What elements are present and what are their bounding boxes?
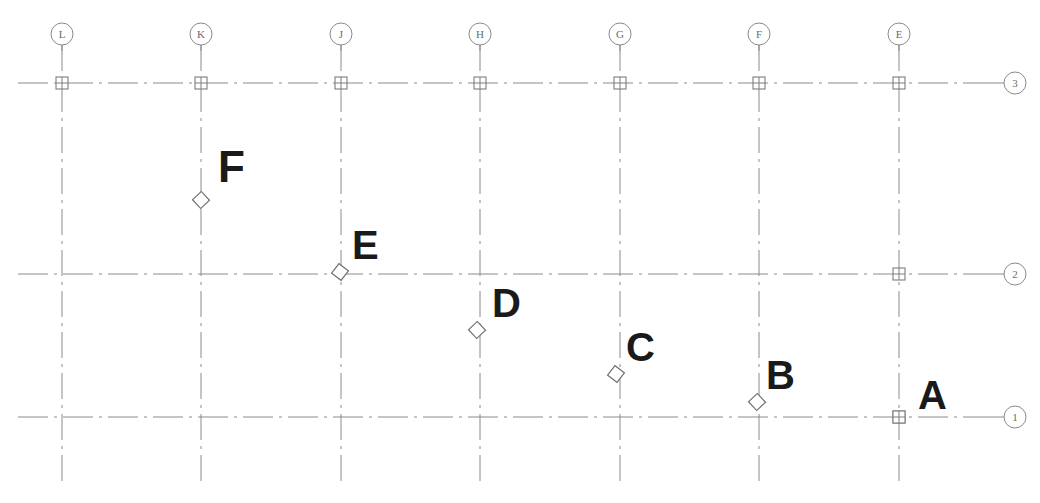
point-label-F: F: [218, 145, 245, 189]
column-grid-bubble-label: F: [756, 28, 762, 40]
column-grid-bubble-E[interactable]: E: [888, 23, 910, 51]
point-marker-F[interactable]: [193, 192, 210, 209]
row-grid-bubble-label: 2: [1012, 268, 1018, 280]
point-label-E: E: [352, 225, 379, 265]
column-grid-bubble-F[interactable]: F: [748, 23, 770, 51]
grid-node-E-3: [893, 77, 905, 89]
column-grid-bubble-label: K: [197, 28, 205, 40]
row-gridlines-group: [18, 83, 975, 417]
row-grid-bubble-2[interactable]: 2: [975, 263, 1026, 285]
column-grid-bubble-label: E: [896, 28, 903, 40]
point-label-A: A: [918, 375, 947, 415]
row-grid-bubble-label: 3: [1012, 77, 1018, 89]
point-marker-A[interactable]: [893, 411, 905, 423]
point-label-C: C: [626, 327, 655, 367]
grid-node-G-3: [614, 77, 626, 89]
row-grid-bubble-label: 1: [1012, 411, 1018, 423]
point-label-D: D: [492, 283, 521, 323]
point-marker-C[interactable]: [608, 366, 625, 383]
column-grid-bubble-G[interactable]: G: [609, 23, 631, 51]
grid-node-H-3: [474, 77, 486, 89]
grid-node-K-3: [195, 77, 207, 89]
row-grid-bubble-1[interactable]: 1: [975, 406, 1026, 428]
row-grid-bubbles-group: 321: [975, 72, 1026, 428]
survey-point-markers-group: [193, 192, 905, 423]
row-grid-bubble-3[interactable]: 3: [975, 72, 1026, 94]
grid-node-F-3: [753, 77, 765, 89]
column-grid-bubble-label: J: [339, 28, 344, 40]
column-grid-bubble-K[interactable]: K: [190, 23, 212, 51]
grid-node-L-3: [56, 77, 68, 89]
grid-node-E-2: [893, 268, 905, 280]
point-label-B: B: [766, 355, 795, 395]
point-marker-D[interactable]: [469, 322, 486, 339]
column-grid-bubble-J[interactable]: J: [330, 23, 352, 51]
point-marker-E[interactable]: [332, 264, 349, 281]
point-marker-B[interactable]: [749, 394, 766, 411]
grid-node-J-3: [335, 77, 347, 89]
column-gridlines-group: [62, 45, 899, 487]
column-grid-bubbles-group: LKJHGFE: [51, 23, 910, 51]
column-grid-bubble-label: G: [616, 28, 624, 40]
drawing-sheet: LKJHGFE 321 ABCDEF: [0, 0, 1040, 503]
column-grid-bubble-label: L: [59, 28, 66, 40]
column-grid-bubble-H[interactable]: H: [469, 23, 491, 51]
column-grid-bubble-L[interactable]: L: [51, 23, 73, 51]
column-grid-bubble-label: H: [476, 28, 484, 40]
grid-plan-canvas: LKJHGFE 321: [0, 0, 1040, 503]
